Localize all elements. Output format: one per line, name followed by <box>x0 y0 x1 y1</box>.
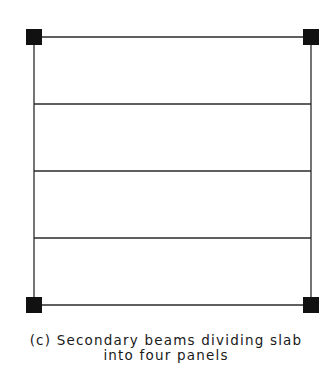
caption-line-2: into four panels <box>0 348 332 363</box>
column-top-right <box>303 29 319 45</box>
beams-group <box>34 37 311 305</box>
column-top-left <box>26 29 42 45</box>
slab-plan-diagram <box>0 0 332 373</box>
caption-line-1: (c) Secondary beams dividing slab <box>0 333 332 348</box>
column-bottom-left <box>26 297 42 313</box>
column-bottom-right <box>303 297 319 313</box>
